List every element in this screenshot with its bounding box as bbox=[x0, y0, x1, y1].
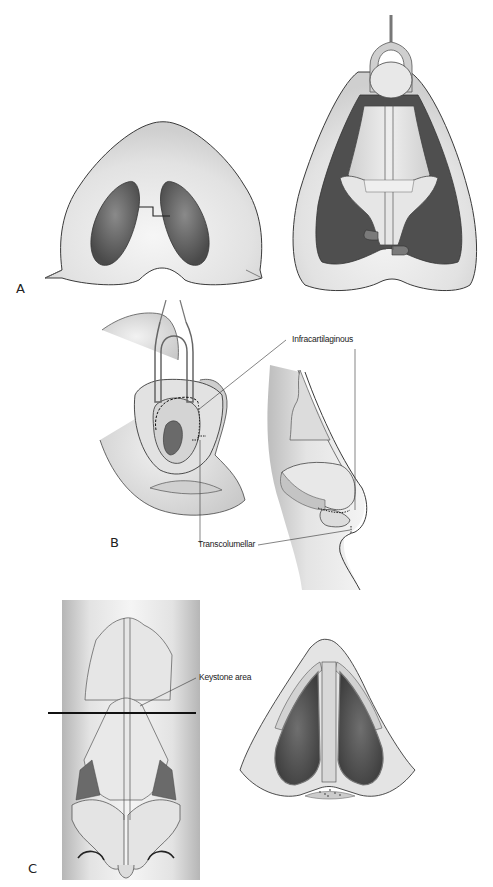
profile-nose-view bbox=[267, 365, 366, 590]
retracted-flap bbox=[370, 62, 412, 98]
panel-a-illustration bbox=[0, 0, 493, 300]
panel-letter-c: C bbox=[28, 861, 37, 876]
panel-letter-b: B bbox=[110, 535, 119, 550]
panel-c: Keystone area C bbox=[0, 590, 493, 887]
label-infracartilaginous: Infracartilaginous bbox=[292, 334, 353, 344]
oblique-nose-view bbox=[100, 300, 245, 515]
label-keystone-area: Keystone area bbox=[199, 672, 251, 682]
label-transcolumellar: Transcolumellar bbox=[198, 539, 255, 549]
basal-nose-view bbox=[45, 122, 262, 285]
panel-letter-a: A bbox=[16, 281, 25, 296]
panel-c-illustration bbox=[0, 590, 493, 887]
panel-a: A bbox=[0, 0, 493, 300]
open-approach-view bbox=[293, 15, 477, 291]
cross-section-view bbox=[240, 639, 415, 799]
frontal-skeleton-view bbox=[48, 600, 200, 880]
panel-b: Infracartilaginous Transcolumellar B bbox=[0, 300, 493, 590]
